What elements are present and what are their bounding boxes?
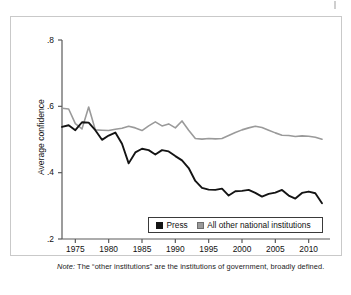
chart-legend: Press All other national institutions bbox=[148, 217, 323, 233]
legend-item-press: Press bbox=[156, 220, 188, 230]
x-axis-tick-label: 1980 bbox=[94, 244, 124, 254]
legend-swatch-other-icon bbox=[197, 222, 204, 229]
legend-swatch-press-icon bbox=[156, 222, 163, 229]
figure-container: Average confidence .2.4.6.8 197519801985… bbox=[0, 0, 351, 295]
x-axis-tick-label: 2010 bbox=[294, 244, 324, 254]
series-line-all-other-national-institutions bbox=[62, 107, 322, 139]
y-axis-tick-label: .4 bbox=[38, 167, 54, 177]
x-axis-ticks bbox=[75, 239, 308, 243]
x-axis-tick-label: 1990 bbox=[160, 244, 190, 254]
x-axis-tick-label: 1975 bbox=[60, 244, 90, 254]
y-axis-tick-label: .6 bbox=[38, 101, 54, 111]
chart-series-group bbox=[62, 107, 322, 203]
chart-axes bbox=[58, 40, 330, 243]
x-axis-tick-label: 2000 bbox=[227, 244, 257, 254]
x-axis-tick-label: 2005 bbox=[260, 244, 290, 254]
legend-label-press: Press bbox=[167, 220, 188, 230]
figure-note-lead: Note: bbox=[57, 262, 75, 271]
x-axis-tick-label: 1985 bbox=[127, 244, 157, 254]
figure-note: Note: The “other institutions” are the i… bbox=[57, 262, 329, 273]
y-axis-tick-label: .2 bbox=[38, 234, 54, 244]
legend-item-other: All other national institutions bbox=[197, 220, 311, 230]
y-axis-tick-label: .8 bbox=[38, 35, 54, 45]
x-axis-tick-label: 1995 bbox=[194, 244, 224, 254]
legend-label-other: All other national institutions bbox=[207, 220, 310, 230]
figure-note-text: The “other institutions” are the institu… bbox=[75, 262, 324, 271]
